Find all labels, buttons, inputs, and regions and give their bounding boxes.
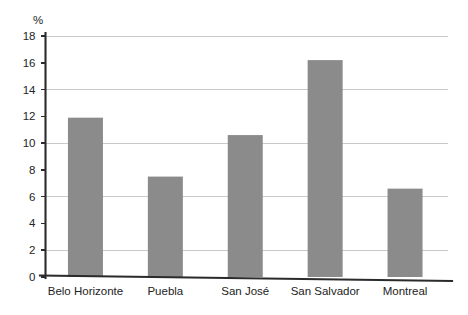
y-axis-tick-label: 10 [23,137,36,149]
bars-group [68,60,423,277]
y-axis-tick-label: 2 [29,244,35,256]
x-axis-category-label: Belo Horizonte [48,285,123,297]
bar [388,189,423,277]
x-axis-category-label: San Salvador [291,285,360,297]
y-axis-tick-label: 12 [23,110,36,122]
x-axis-category-labels: Belo HorizontePueblaSan JoséSan Salvador… [48,285,428,297]
y-axis-tick-label: 18 [23,30,36,42]
x-axis-category-label: Montreal [383,285,428,297]
bar [308,60,343,277]
y-axis-tick-label: 4 [29,217,36,229]
y-axis-tick-labels: 024681012141618 [23,30,36,283]
y-axis-tick-label: 16 [23,57,36,69]
chart-canvas: 024681012141618 Belo HorizontePueblaSan … [0,0,468,315]
y-axis-tick-label: 0 [29,271,35,283]
x-axis-category-label: San José [221,285,269,297]
y-axis-tick-label: 8 [29,164,35,176]
y-axis-unit-label: % [33,14,43,26]
bar [68,118,103,277]
y-axis-tick-label: 6 [29,191,35,203]
bar [228,135,263,277]
bar-chart-figure: 024681012141618 Belo HorizontePueblaSan … [0,0,468,315]
y-axis-tick-label: 14 [23,84,36,96]
x-axis-category-label: Puebla [147,285,183,297]
bar [148,177,183,277]
